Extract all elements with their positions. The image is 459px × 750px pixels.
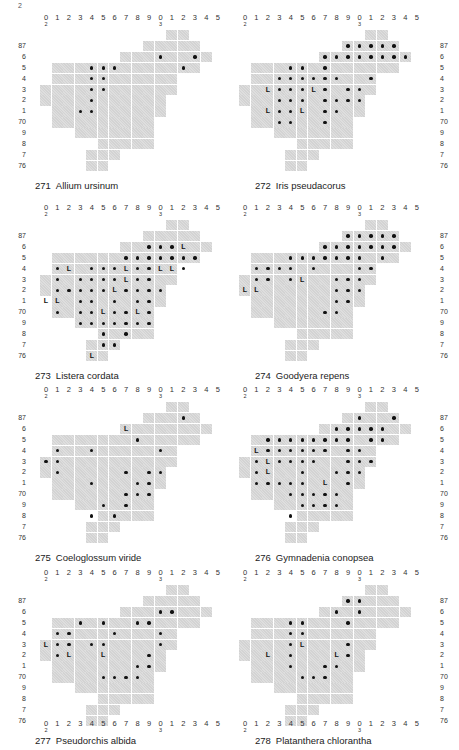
grid-cell xyxy=(274,253,285,263)
grid-cell xyxy=(319,683,330,693)
grid-cell xyxy=(365,585,376,595)
literature-record-marker: L xyxy=(109,285,120,296)
column-label: 7 xyxy=(120,14,131,22)
record-dot-icon xyxy=(331,74,342,85)
column-label: 2 xyxy=(377,386,388,394)
grid-cell xyxy=(143,435,154,445)
column-label: 3 xyxy=(75,720,86,728)
record-dot-icon xyxy=(98,285,109,296)
map-caption: 278Platanthera chlorantha xyxy=(255,735,371,746)
row-label: 9 xyxy=(12,683,26,694)
grid-cell xyxy=(297,150,308,160)
record-dot-icon xyxy=(143,275,154,286)
grid-cell xyxy=(251,63,262,73)
grid-cell xyxy=(262,489,273,499)
grid-cell xyxy=(308,467,319,477)
grid-cell xyxy=(120,511,131,521)
grid-cell xyxy=(189,41,200,51)
grid-cell xyxy=(331,672,342,682)
column-label: 03 xyxy=(354,720,365,733)
record-dot-icon xyxy=(274,106,285,117)
map-caption: 271Allium ursinum xyxy=(35,180,118,191)
grid-cell xyxy=(98,478,109,488)
grid-cell xyxy=(132,95,143,105)
column-label: 3 xyxy=(388,14,399,22)
grid-cell xyxy=(377,63,388,73)
grid-cell xyxy=(365,85,376,95)
row-label: 4 xyxy=(440,74,454,85)
column-label: 4 xyxy=(285,386,296,394)
record-dot-icon xyxy=(285,117,296,128)
grid-cell xyxy=(63,95,74,105)
grid-cell xyxy=(285,522,296,532)
grid-cell xyxy=(166,413,177,423)
column-label-sub: 2 xyxy=(40,394,51,399)
grid-cell xyxy=(98,161,109,171)
column-label: 03 xyxy=(155,14,166,27)
grid-cell xyxy=(109,446,120,456)
grid-cell xyxy=(239,95,250,105)
grid-cell xyxy=(342,128,353,138)
column-label: 4 xyxy=(201,386,212,394)
grid-cell xyxy=(388,63,399,73)
record-dot-icon xyxy=(285,478,296,489)
grid-cell xyxy=(308,694,319,704)
grid-cell xyxy=(132,329,143,339)
row-label: 8 xyxy=(440,139,454,150)
grid-cell xyxy=(365,63,376,73)
grid-cell xyxy=(274,275,285,285)
grid-cell xyxy=(178,30,189,40)
grid-cell xyxy=(75,253,86,263)
grid-cell xyxy=(308,705,319,715)
row-label: 4 xyxy=(440,629,454,640)
column-label: 1 xyxy=(52,204,63,212)
grid-cell xyxy=(308,329,319,339)
grid-cell xyxy=(274,650,285,660)
record-dot-icon xyxy=(166,253,177,264)
grid-cell xyxy=(40,467,51,477)
grid-cell xyxy=(86,672,97,682)
column-label: 4 xyxy=(400,386,411,394)
grid-cell xyxy=(120,95,131,105)
grid-cell xyxy=(354,435,365,445)
grid-cell xyxy=(109,457,120,467)
column-label-sub: 2 xyxy=(40,212,51,217)
record-dot-icon xyxy=(331,253,342,264)
column-label: 03 xyxy=(354,386,365,399)
grid-cell xyxy=(52,253,63,263)
record-dot-icon xyxy=(98,264,109,275)
record-dot-icon xyxy=(143,264,154,275)
row-label: 76 xyxy=(12,351,26,362)
record-dot-icon xyxy=(342,85,353,96)
grid-cell xyxy=(308,683,319,693)
literature-record-marker: L xyxy=(63,264,74,275)
record-dot-icon xyxy=(262,275,273,286)
grid-cell xyxy=(274,63,285,73)
record-dot-icon xyxy=(388,242,399,253)
column-label: 6 xyxy=(109,386,120,394)
species-name: Coeloglossum viride xyxy=(56,552,142,563)
record-dot-icon xyxy=(365,52,376,63)
grid-cell xyxy=(331,264,342,274)
record-dot-icon xyxy=(166,242,177,253)
column-label: 5 xyxy=(98,14,109,22)
column-label: 6 xyxy=(308,14,319,22)
row-label: 5 xyxy=(440,253,454,264)
column-label: 1 xyxy=(251,720,262,728)
grid-cell xyxy=(52,478,63,488)
literature-record-marker: L xyxy=(262,106,273,117)
row-label: 2 xyxy=(440,285,454,296)
column-label: 3 xyxy=(274,14,285,22)
record-dot-icon xyxy=(285,435,296,446)
grid-cell xyxy=(331,63,342,73)
row-label: 2 xyxy=(440,650,454,661)
map-number: 274 xyxy=(255,370,271,381)
grid-cell xyxy=(63,661,74,671)
grid-cell xyxy=(63,106,74,116)
column-label-sub: 2 xyxy=(40,577,51,582)
grid-cell xyxy=(109,489,120,499)
column-label: 1 xyxy=(365,720,376,728)
record-dot-icon xyxy=(120,672,131,683)
record-dot-icon xyxy=(319,661,330,672)
record-dot-icon xyxy=(331,106,342,117)
